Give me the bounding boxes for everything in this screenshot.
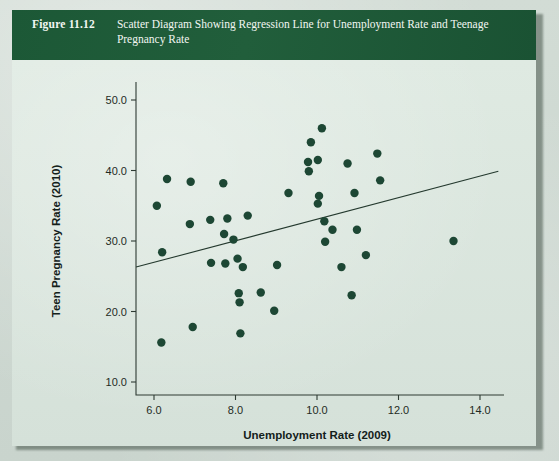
data-point [314, 199, 322, 207]
data-point [321, 238, 329, 246]
data-point [206, 216, 214, 224]
y-axis-title: Teen Pregnancy Rate (2010) [50, 165, 62, 318]
data-point [315, 192, 323, 200]
data-point [305, 167, 313, 175]
caption-line-1: Scatter Diagram Showing Regression Line … [117, 18, 448, 30]
data-point [257, 288, 265, 296]
data-point [163, 175, 171, 183]
data-point [158, 248, 166, 256]
data-point [235, 289, 243, 297]
x-tick-label: 6.0 [146, 404, 161, 416]
axis-titles-group: Unemployment Rate (2009)Teen Pregnancy R… [50, 165, 391, 441]
data-point [353, 226, 361, 234]
data-point [307, 138, 315, 146]
data-point [153, 202, 161, 210]
y-tick-label: 30.0 [106, 235, 127, 247]
figure-caption-band: Figure 11.12 Scatter Diagram Showing Reg… [12, 10, 536, 60]
data-point [273, 261, 281, 269]
data-point [189, 323, 197, 331]
figure-caption-text: Scatter Diagram Showing Regression Line … [117, 17, 517, 47]
data-point [220, 230, 228, 238]
data-point [186, 220, 194, 228]
x-tick-label: 8.0 [228, 404, 243, 416]
data-point [373, 149, 381, 157]
data-point [318, 124, 326, 132]
data-point [314, 156, 322, 164]
data-point [304, 158, 312, 166]
x-tick-label: 14.0 [469, 404, 490, 416]
data-point [350, 189, 358, 197]
plot-inner: 10.020.030.040.050.06.08.010.012.014.0 U… [12, 60, 536, 446]
data-point [233, 254, 241, 262]
y-tick-label: 40.0 [106, 165, 127, 177]
data-point [235, 298, 243, 306]
data-point [337, 263, 345, 271]
data-point [347, 291, 355, 299]
data-point [362, 251, 370, 259]
y-tick-label: 10.0 [106, 376, 127, 388]
ticks-group [131, 100, 480, 400]
data-point [270, 307, 278, 315]
data-point [207, 259, 215, 267]
y-tick-label: 50.0 [106, 94, 127, 106]
x-axis-title: Unemployment Rate (2009) [243, 429, 391, 441]
data-point [219, 179, 227, 187]
data-point [449, 237, 457, 245]
plot-panel: 10.020.030.040.050.06.08.010.012.014.0 U… [12, 60, 536, 446]
x-tick-label: 10.0 [306, 404, 327, 416]
data-points-group [153, 124, 458, 347]
data-point [343, 159, 351, 167]
data-point [328, 226, 336, 234]
scatter-chart: 10.020.030.040.050.06.08.010.012.014.0 U… [12, 60, 536, 446]
data-point [157, 338, 165, 346]
y-tick-label: 20.0 [106, 306, 127, 318]
x-tick-label: 12.0 [388, 404, 409, 416]
data-point [284, 189, 292, 197]
data-point [239, 263, 247, 271]
figure-number-label: Figure 11.12 [32, 17, 95, 30]
data-point [244, 211, 252, 219]
data-point [376, 176, 384, 184]
data-point [221, 259, 229, 267]
data-point [223, 214, 231, 222]
data-point [186, 178, 194, 186]
data-point [320, 217, 328, 225]
data-point [229, 235, 237, 243]
figure-card: Figure 11.12 Scatter Diagram Showing Reg… [12, 10, 536, 446]
data-point [236, 329, 244, 337]
